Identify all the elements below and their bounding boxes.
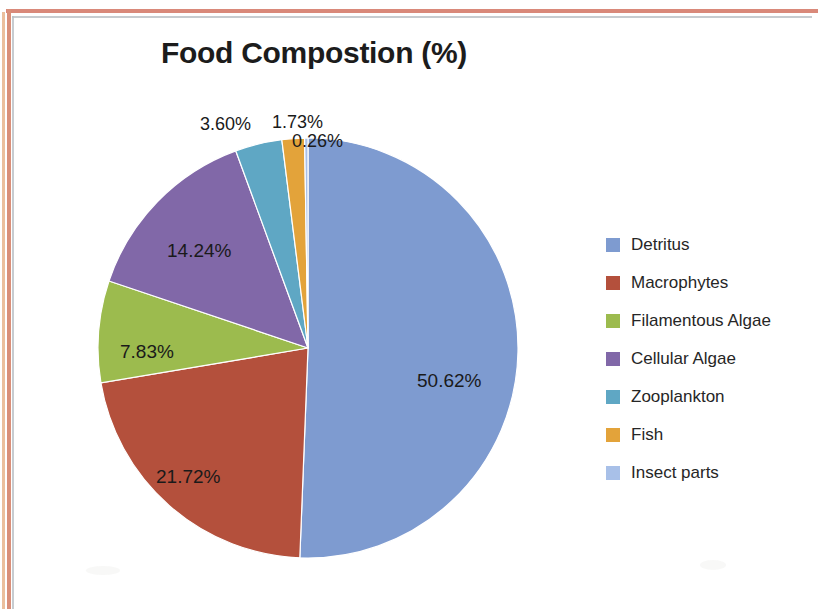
pie-data-label: 50.62% xyxy=(417,370,481,392)
legend-item-label: Zooplankton xyxy=(631,387,725,407)
pie-data-label: 0.26% xyxy=(292,131,343,152)
pie-slice[interactable] xyxy=(101,348,308,558)
pie-chart: Food Compostion (%) 50.62%21.72%7.83%14.… xyxy=(14,18,818,609)
legend-item-label: Filamentous Algae xyxy=(631,311,771,331)
page-border-left-outer xyxy=(2,12,5,609)
legend-item-label: Fish xyxy=(631,425,663,445)
chart-legend: DetritusMacrophytesFilamentous AlgaeCell… xyxy=(606,226,818,492)
legend-item-label: Macrophytes xyxy=(631,273,728,293)
legend-color-swatch xyxy=(606,276,620,290)
legend-item[interactable]: Insect parts xyxy=(606,454,818,492)
legend-item[interactable]: Cellular Algae xyxy=(606,340,818,378)
legend-item[interactable]: Detritus xyxy=(606,226,818,264)
pie-data-label: 1.73% xyxy=(272,112,323,133)
legend-item[interactable]: Zooplankton xyxy=(606,378,818,416)
pie-data-label: 7.83% xyxy=(120,341,174,363)
chart-title: Food Compostion (%) xyxy=(14,36,614,70)
legend-item-label: Cellular Algae xyxy=(631,349,736,369)
legend-color-swatch xyxy=(606,428,620,442)
pie-data-label: 21.72% xyxy=(156,466,220,488)
page-border-top xyxy=(6,9,818,13)
legend-color-swatch xyxy=(606,352,620,366)
legend-color-swatch xyxy=(606,466,620,480)
pie-data-label: 14.24% xyxy=(167,240,231,262)
legend-item-label: Detritus xyxy=(631,235,690,255)
legend-color-swatch xyxy=(606,314,620,328)
pie-slice[interactable] xyxy=(300,138,518,558)
page-border-left xyxy=(7,9,11,609)
legend-item[interactable]: Filamentous Algae xyxy=(606,302,818,340)
legend-item[interactable]: Macrophytes xyxy=(606,264,818,302)
legend-color-swatch xyxy=(606,238,620,252)
legend-color-swatch xyxy=(606,390,620,404)
legend-item[interactable]: Fish xyxy=(606,416,818,454)
legend-item-label: Insect parts xyxy=(631,463,719,483)
pie-data-label: 3.60% xyxy=(200,114,251,135)
